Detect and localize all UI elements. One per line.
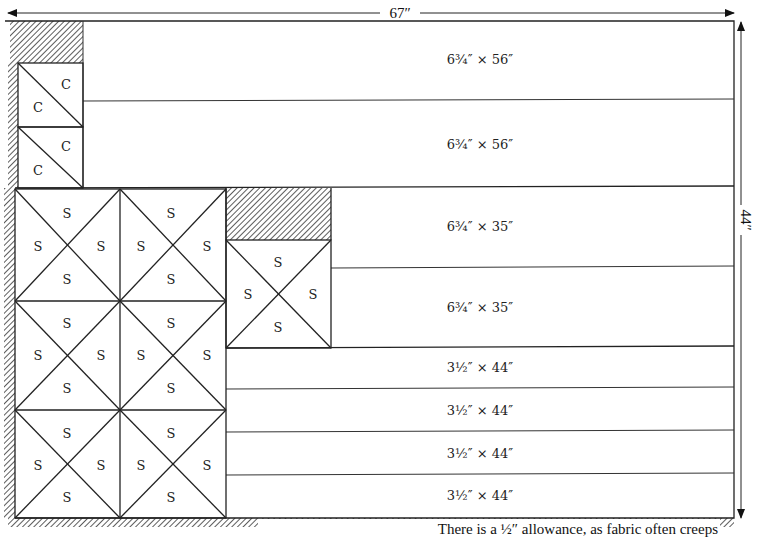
- s-label: S: [63, 381, 72, 396]
- s-label: S: [274, 320, 283, 335]
- strip-label: 6¾″ × 56″: [447, 137, 513, 152]
- s-label: S: [34, 458, 43, 473]
- fabric-cutting-layout-diagram: 67″ 44″ 6¾″ × 56″ 6¾″ × 56″ 6¾″ × 35″ 6¾…: [0, 0, 757, 543]
- s-label: S: [167, 206, 176, 221]
- s-label: S: [63, 316, 72, 331]
- s-label: S: [167, 381, 176, 396]
- strip-divider: [226, 473, 734, 475]
- c-pieces: C C C C: [18, 63, 83, 188]
- s-label: S: [137, 458, 146, 473]
- s-label: S: [203, 458, 212, 473]
- s-label: S: [97, 458, 106, 473]
- waste-left-strip-upper: [8, 63, 18, 188]
- strip-label: 3½″ × 44″: [447, 446, 513, 461]
- width-label: 67″: [389, 5, 410, 21]
- allowance-note: There is a ½″ allowance, as fabric often…: [438, 521, 718, 537]
- s-label: S: [63, 426, 72, 441]
- strip-divider: [226, 430, 734, 432]
- strip-label: 6¾″ × 56″: [447, 52, 513, 67]
- c-label: C: [61, 77, 71, 92]
- height-dimension: 44″: [738, 22, 754, 518]
- waste-middle-top: [226, 188, 331, 240]
- s-label: S: [34, 348, 43, 363]
- s-label: S: [309, 287, 318, 302]
- width-dimension: 67″: [8, 5, 734, 21]
- s-label: S: [203, 348, 212, 363]
- outer-frame: [5, 21, 734, 518]
- s-label: S: [63, 206, 72, 221]
- s-label: S: [244, 287, 253, 302]
- strip-divider: [226, 387, 734, 389]
- strip-label: 6¾″ × 35″: [447, 219, 513, 234]
- strip-divider: [331, 266, 734, 268]
- waste-top-left: [10, 21, 83, 63]
- s-label: S: [167, 426, 176, 441]
- strip-label: 6¾″ × 35″: [447, 300, 513, 315]
- strip-label: 3½″ × 44″: [447, 360, 513, 375]
- s-label: S: [167, 490, 176, 505]
- s-label: S: [274, 255, 283, 270]
- strip-label: 3½″ × 44″: [447, 488, 513, 503]
- s-label: S: [63, 490, 72, 505]
- s-label: S: [167, 272, 176, 287]
- s-pieces-grid: S S S S S S S S S S S S S S S S S S S S …: [15, 189, 226, 518]
- s-label: S: [203, 239, 212, 254]
- c-label: C: [61, 139, 71, 154]
- strip-divider: [15, 186, 734, 188]
- s-label: S: [63, 272, 72, 287]
- strip-divider: [83, 99, 734, 101]
- c-label: C: [33, 100, 43, 115]
- strip-label: 3½″ × 44″: [447, 403, 513, 418]
- s-label: S: [137, 239, 146, 254]
- s-label: S: [97, 239, 106, 254]
- s-label: S: [34, 239, 43, 254]
- s-label: S: [137, 348, 146, 363]
- strips: 6¾″ × 56″ 6¾″ × 56″ 6¾″ × 35″ 6¾″ × 35″ …: [15, 21, 734, 503]
- s-label: S: [167, 316, 176, 331]
- c-label: C: [33, 163, 43, 178]
- waste-left-strip-lower: [4, 188, 15, 518]
- height-label: 44″: [738, 209, 754, 230]
- waste-hatching: [4, 21, 734, 527]
- s-label: S: [97, 348, 106, 363]
